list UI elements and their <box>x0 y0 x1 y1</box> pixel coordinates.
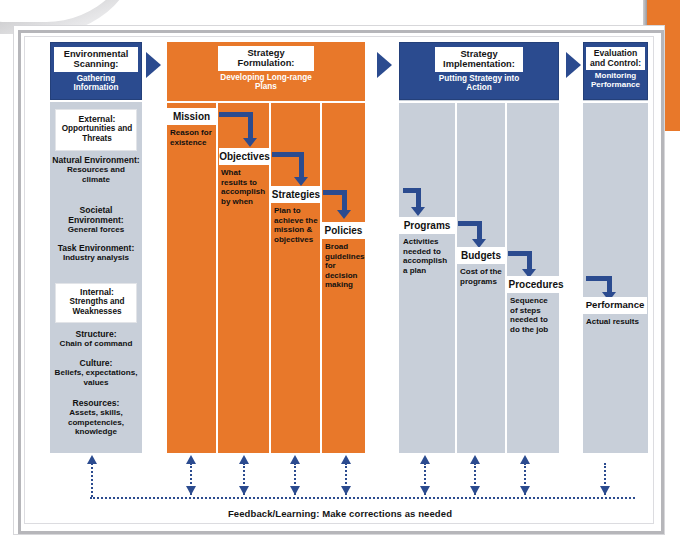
feedback-caption: Feedback/Learning: Make corrections as n… <box>0 508 680 519</box>
label-strategies[interactable]: Strategies <box>271 186 321 203</box>
header-subtitle-strategy-implementation: Putting Strategy into Action <box>431 74 527 92</box>
detail-policies: Broad guidelines for decision making <box>325 242 367 290</box>
resources-title: Resources: <box>50 398 142 408</box>
feedback-down-arrow-1-icon <box>186 486 196 495</box>
implementation-top-divider <box>399 101 559 103</box>
structure-detail: Chain of command <box>50 339 142 349</box>
header-title-environmental-scanning: Environmental Scanning: <box>54 47 138 72</box>
feedback-down-arrow-3-icon <box>290 486 300 495</box>
external-subtitle: Opportunities and Threats <box>56 124 138 143</box>
header-strategy-formulation[interactable]: Strategy Formulation: Developing Long-ra… <box>167 42 365 100</box>
header-evaluation-and-control[interactable]: Evaluation and Control: Monitoring Perfo… <box>583 42 648 100</box>
detail-objectives: What results to accomplish by when <box>221 168 267 206</box>
feedback-up-arrow-4-icon <box>341 455 351 464</box>
header-title-strategy-implementation: Strategy Implementation: <box>435 47 523 72</box>
detail-strategies: Plan to achieve the mission & objectives <box>274 206 320 244</box>
external-label-block: External: Opportunities and Threats <box>56 114 138 143</box>
label-programs[interactable]: Programs <box>399 217 455 234</box>
header-strategy-implementation[interactable]: Strategy Implementation: Putting Strateg… <box>399 42 559 100</box>
feedback-down-arrow-7-icon <box>520 486 530 495</box>
detail-budgets: Cost of the programs <box>460 267 504 286</box>
feedback-up-arrow-3-icon <box>290 455 300 464</box>
header-subtitle-environmental-scanning: Gathering Information <box>54 74 138 92</box>
item-culture: Culture: Beliefs, expectations, values <box>48 358 144 387</box>
panel-evaluation-and-control <box>583 42 648 453</box>
evaluation-top-divider <box>583 101 648 103</box>
item-natural-environment: Natural Environment: Resources and clima… <box>52 155 140 184</box>
feedback-stem-0 <box>91 463 93 497</box>
arrow-strategies-to-policies-icon <box>323 190 367 226</box>
item-societal-environment: Societal Environment: General forces <box>52 205 140 235</box>
header-title-strategy-formulation: Strategy Formulation: <box>218 46 314 71</box>
societal-environment-title: Societal Environment: <box>52 205 140 225</box>
formulation-divider-3 <box>320 103 322 453</box>
culture-title: Culture: <box>48 358 144 368</box>
label-budgets[interactable]: Budgets <box>457 247 505 264</box>
societal-environment-detail: General forces <box>52 225 140 235</box>
task-environment-title: Task Environment: <box>52 243 140 253</box>
card-external[interactable]: External: Opportunities and Threats <box>55 109 137 151</box>
internal-title: Internal: <box>56 287 138 297</box>
header-title-evaluation-and-control: Evaluation and Control: <box>586 47 645 70</box>
label-objectives[interactable]: Objectives <box>219 148 270 165</box>
culture-detail: Beliefs, expectations, values <box>48 368 144 387</box>
resources-detail: Assets, skills, competencies, knowledge <box>50 408 142 437</box>
arrow-implementation-to-evaluation-icon <box>566 52 581 78</box>
task-environment-detail: Industry analysis <box>52 253 140 263</box>
feedback-down-arrow-6-icon <box>470 486 480 495</box>
arrow-scanning-to-formulation-icon <box>146 52 161 78</box>
formulation-divider-1 <box>216 103 218 453</box>
item-resources: Resources: Assets, skills, competencies,… <box>50 398 142 437</box>
item-structure: Structure: Chain of command <box>50 329 142 349</box>
diagram-page: Environmental Scanning: Gathering Inform… <box>0 0 680 556</box>
feedback-up-arrow-0-icon <box>87 455 97 464</box>
header-subtitle-evaluation-and-control: Monitoring Performance <box>586 72 645 90</box>
detail-mission: Reason for existence <box>170 128 216 147</box>
label-mission[interactable]: Mission <box>167 108 216 125</box>
feedback-up-arrow-2-icon <box>239 455 249 464</box>
label-policies[interactable]: Policies <box>322 222 365 239</box>
structure-title: Structure: <box>50 329 142 339</box>
formulation-top-divider <box>167 101 365 103</box>
feedback-down-arrow-2-icon <box>239 486 249 495</box>
feedback-down-arrow-8-icon <box>600 486 610 495</box>
internal-subtitle: Strengths and Weaknesses <box>56 297 138 316</box>
natural-environment-title: Natural Environment: <box>52 155 140 165</box>
detail-procedures: Sequence of steps needed to do the job <box>510 296 556 334</box>
arrow-objectives-to-strategies-icon <box>272 152 316 190</box>
external-title: External: <box>56 114 138 124</box>
header-environmental-scanning[interactable]: Environmental Scanning: Gathering Inform… <box>50 42 142 100</box>
corner-swoosh-inner <box>0 0 138 22</box>
natural-environment-detail: Resources and climate <box>52 165 140 184</box>
detail-performance: Actual results <box>586 317 646 327</box>
feedback-horizontal-line <box>90 497 635 499</box>
feedback-up-arrow-1-icon <box>186 455 196 464</box>
item-task-environment: Task Environment: Industry analysis <box>52 243 140 263</box>
feedback-down-arrow-5-icon <box>420 486 430 495</box>
feedback-down-arrow-4-icon <box>341 486 351 495</box>
label-procedures[interactable]: Procedures <box>507 276 565 293</box>
feedback-up-arrow-7-icon <box>520 455 530 464</box>
header-subtitle-strategy-formulation: Developing Long-range Plans <box>216 73 316 91</box>
arrow-mission-to-objectives-icon <box>219 112 263 150</box>
feedback-up-arrow-6-icon <box>470 455 480 464</box>
label-performance[interactable]: Performance <box>583 297 647 314</box>
feedback-up-arrow-5-icon <box>420 455 430 464</box>
implementation-divider-1 <box>455 103 457 453</box>
arrow-formulation-to-implementation-icon <box>377 52 392 78</box>
detail-programs: Activities needed to accomplish a plan <box>403 237 451 275</box>
internal-label-block: Internal: Strengths and Weaknesses <box>56 287 138 316</box>
card-internal[interactable]: Internal: Strengths and Weaknesses <box>55 283 137 323</box>
